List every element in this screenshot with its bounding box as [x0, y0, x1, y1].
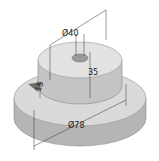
center-hole	[72, 54, 88, 62]
label-boss-diameter: Ø40	[62, 28, 78, 38]
part-drawing: Ø40 35 15 Ø78	[0, 0, 159, 161]
label-boss-height: 35	[88, 68, 98, 77]
label-base-diameter: Ø78	[68, 120, 84, 130]
